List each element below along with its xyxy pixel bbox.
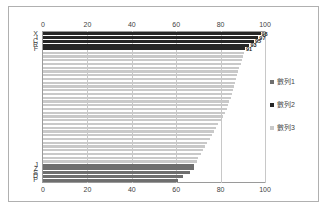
x-tick-top-80: 80 — [209, 20, 233, 29]
chart-frame: 020406080100 020406080100 XICRFJZSDP 989… — [8, 6, 319, 202]
bar-row-9 — [43, 67, 239, 69]
legend-label-1: 數列1 — [277, 78, 295, 86]
legend-label-3: 數列3 — [277, 124, 295, 132]
legend-swatch-icon-3 — [270, 126, 274, 130]
axis-line-bottom — [42, 182, 266, 183]
bar-row-24 — [43, 123, 218, 125]
legend-swatch-icon-1 — [270, 80, 274, 84]
bar-row-26 — [43, 130, 214, 132]
bar-row-34 — [43, 160, 197, 162]
bar-row-14 — [43, 85, 234, 87]
bar-row-17 — [43, 97, 231, 99]
data-label-F: 91 — [246, 46, 252, 52]
bar-row-27 — [43, 134, 212, 136]
bar-row-13 — [43, 82, 235, 84]
bar-row-2 — [43, 40, 254, 43]
bar-row-36 — [43, 167, 194, 170]
bar-row-15 — [43, 89, 233, 91]
bar-row-22 — [43, 115, 223, 117]
bar-row-25 — [43, 127, 216, 129]
x-tick-bottom-60: 60 — [164, 185, 188, 194]
legend-label-2: 數列2 — [277, 101, 295, 109]
bar-row-8 — [43, 63, 241, 65]
bar-row-10 — [43, 70, 238, 72]
bar-row-33 — [43, 157, 198, 159]
bar-row-30 — [43, 145, 205, 147]
bar-row-20 — [43, 108, 227, 110]
legend-item-2[interactable]: 數列2 — [270, 99, 318, 110]
bar-row-11 — [43, 74, 237, 76]
category-label-P: P — [16, 176, 38, 184]
bar-row-16 — [43, 93, 232, 95]
legend-item-3[interactable]: 數列3 — [270, 122, 318, 133]
bar-row-32 — [43, 153, 201, 155]
gridline-100 — [265, 31, 266, 183]
bar-row-31 — [43, 149, 203, 151]
bar-row-6 — [43, 55, 243, 57]
bar-row-28 — [43, 138, 210, 140]
bar-row-39 — [43, 179, 178, 182]
bar-row-21 — [43, 112, 225, 114]
plot-area: 9897959391 — [42, 31, 266, 183]
chart-inner-border: 020406080100 020406080100 XICRFJZSDP 989… — [12, 10, 315, 198]
bar-row-38 — [43, 175, 183, 178]
x-tick-top-20: 20 — [75, 20, 99, 29]
bar-row-1 — [43, 36, 258, 39]
bar-row-19 — [43, 104, 228, 106]
x-tick-bottom-100: 100 — [253, 185, 277, 194]
x-tick-bottom-80: 80 — [209, 185, 233, 194]
bar-row-5 — [43, 52, 244, 54]
bar-row-7 — [43, 59, 242, 61]
bar-row-3 — [43, 44, 249, 47]
bar-row-35 — [43, 164, 194, 167]
x-tick-top-40: 40 — [120, 20, 144, 29]
bar-row-12 — [43, 78, 236, 80]
bar-row-18 — [43, 100, 229, 102]
bar-row-37 — [43, 171, 190, 174]
x-tick-top-60: 60 — [164, 20, 188, 29]
x-tick-bottom-20: 20 — [75, 185, 99, 194]
bar-row-4 — [43, 47, 245, 50]
legend-swatch-icon-2 — [270, 103, 274, 107]
x-tick-bottom-40: 40 — [120, 185, 144, 194]
x-tick-top-100: 100 — [253, 20, 277, 29]
chart-legend: 數列1數列2數列3 — [270, 76, 318, 145]
bar-row-23 — [43, 119, 221, 121]
bar-row-0 — [43, 32, 261, 35]
category-label-F: F — [16, 45, 38, 53]
legend-item-1[interactable]: 數列1 — [270, 76, 318, 87]
bar-row-29 — [43, 142, 207, 144]
x-tick-bottom-0: 0 — [31, 185, 55, 194]
x-tick-top-0: 0 — [31, 20, 55, 29]
